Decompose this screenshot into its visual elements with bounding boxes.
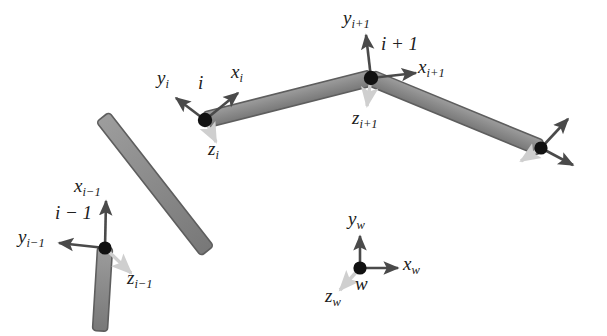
label-joint-i-minus-1: i − 1 bbox=[55, 203, 92, 222]
label-x-i-plus-1: xi+1 bbox=[418, 57, 445, 79]
x-axis-i-minus-1 bbox=[105, 201, 106, 248]
label-y-i: yi bbox=[157, 68, 169, 90]
label-x-w: xw bbox=[403, 254, 420, 276]
joint-dot-group bbox=[98, 71, 547, 275]
label-y-i-plus-1: yi+1 bbox=[343, 8, 370, 30]
diagram-canvas: xi−1 yi−1 zi−1 i − 1 xi yi zi i xi+1 yi+… bbox=[0, 0, 607, 336]
joint-dot-end-effector bbox=[534, 141, 547, 154]
joint-dot-i-minus-1 bbox=[98, 241, 111, 254]
link-i-minus-1-to-i bbox=[96, 112, 213, 256]
label-x-i: xi bbox=[231, 62, 243, 84]
joint-dot-i-plus-1 bbox=[364, 71, 378, 85]
link-base bbox=[92, 247, 112, 332]
label-joint-i: i bbox=[198, 73, 203, 92]
y-axis-i-minus-1 bbox=[59, 243, 105, 248]
label-world-origin: w bbox=[355, 274, 368, 293]
label-z-i: zi bbox=[208, 139, 219, 161]
label-y-w: yw bbox=[348, 209, 365, 231]
label-y-i-minus-1: yi−1 bbox=[18, 227, 45, 249]
label-z-w: zw bbox=[325, 286, 341, 308]
frame-world-axes bbox=[340, 236, 398, 290]
label-z-i-minus-1: zi−1 bbox=[127, 268, 153, 290]
link-i-plus-1-to-end bbox=[368, 71, 544, 156]
joint-dot-i bbox=[198, 113, 212, 127]
link-i-to-i-plus-1 bbox=[203, 70, 374, 128]
kinematic-chain-svg bbox=[0, 0, 607, 336]
label-joint-i-plus-1: i + 1 bbox=[381, 34, 418, 53]
label-z-i-plus-1: zi+1 bbox=[352, 108, 378, 130]
label-x-i-minus-1: xi−1 bbox=[74, 176, 101, 198]
link-group bbox=[92, 70, 544, 331]
